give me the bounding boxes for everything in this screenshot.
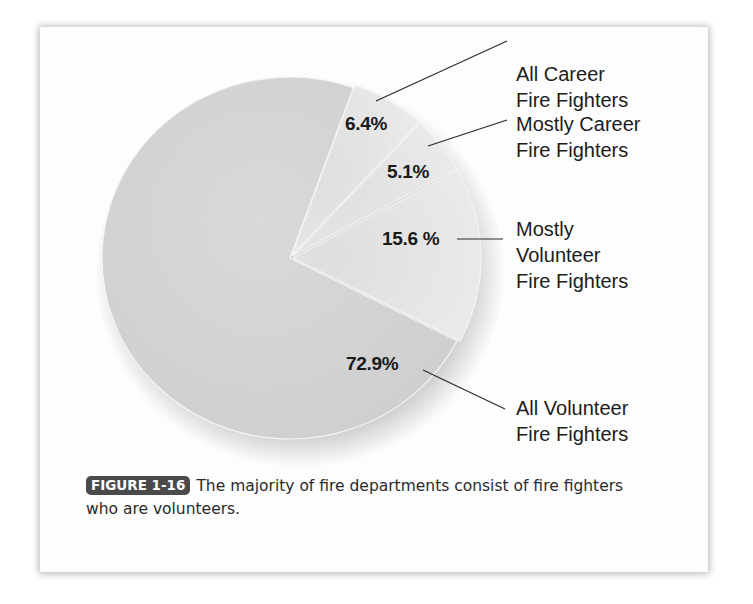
value-label-all-career: 6.4%: [345, 113, 387, 135]
callout-line: Fire Fighters: [516, 87, 628, 113]
figure-caption: FIGURE 1-16The majority of fire departme…: [86, 475, 646, 521]
callout-mostly-volunteer: Mostly Volunteer Fire Fighters: [516, 216, 628, 294]
figure-number-badge: FIGURE 1-16: [86, 476, 190, 495]
leader-line-all-career: [376, 41, 507, 101]
callout-all-career: All Career Fire Fighters: [516, 61, 628, 113]
value-label-all-volunteer: 72.9%: [346, 353, 398, 375]
value-label-mostly-career: 5.1%: [387, 161, 429, 183]
callout-line: Fire Fighters: [516, 137, 640, 163]
callout-line: All Volunteer: [516, 395, 628, 421]
callout-all-volunteer: All Volunteer Fire Fighters: [516, 395, 628, 447]
callout-line: Mostly: [516, 216, 628, 242]
callout-line: All Career: [516, 61, 628, 87]
callout-line: Mostly Career: [516, 111, 640, 137]
callout-line: Volunteer: [516, 242, 628, 268]
callout-mostly-career: Mostly Career Fire Fighters: [516, 111, 640, 163]
callout-line: Fire Fighters: [516, 421, 628, 447]
callout-line: Fire Fighters: [516, 268, 628, 294]
value-label-mostly-volunteer: 15.6 %: [382, 228, 439, 250]
